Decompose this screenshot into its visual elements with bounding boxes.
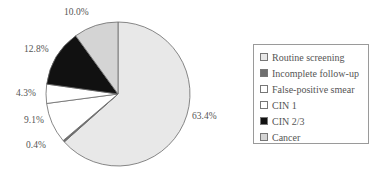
legend-label: CIN 1 <box>272 100 297 111</box>
chart-legend: Routine screening Incomplete follow-up F… <box>253 44 369 144</box>
legend-label: CIN 2/3 <box>272 116 305 127</box>
slice-label-cin-1: 4.3% <box>16 88 36 98</box>
legend-swatch-icon <box>260 117 268 125</box>
legend-item-cancer: Cancer <box>260 129 368 145</box>
legend-label: Cancer <box>272 132 300 143</box>
legend-item-incomplete-follow-up: Incomplete follow-up <box>260 65 368 81</box>
slice-label-cin-2-3: 12.8% <box>24 44 49 54</box>
legend-item-cin-2-3: CIN 2/3 <box>260 113 368 129</box>
legend-label: False-positive smear <box>272 84 354 95</box>
legend-item-routine-screening: Routine screening <box>260 49 368 65</box>
legend-swatch-icon <box>260 69 268 77</box>
legend-item-cin-1: CIN 1 <box>260 97 368 113</box>
slice-label-routine-screening: 63.4% <box>192 111 217 121</box>
legend-label: Routine screening <box>272 52 344 63</box>
slice-label-cancer: 10.0% <box>64 7 89 17</box>
legend-swatch-icon <box>260 85 268 93</box>
legend-swatch-icon <box>260 133 268 141</box>
legend-label: Incomplete follow-up <box>272 68 359 79</box>
legend-swatch-icon <box>260 53 268 61</box>
slice-label-incomplete-follow-up: 0.4% <box>26 140 46 150</box>
slice-label-false-positive-smear: 9.1% <box>24 115 44 125</box>
legend-swatch-icon <box>260 101 268 109</box>
legend-item-false-positive-smear: False-positive smear <box>260 81 368 97</box>
